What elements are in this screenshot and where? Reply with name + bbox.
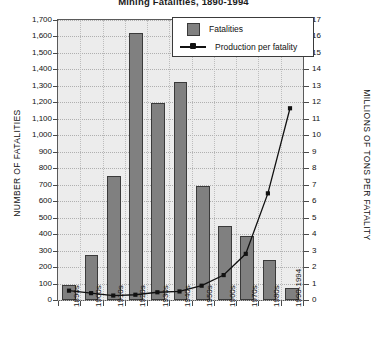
y-tick-mark-left (53, 201, 58, 202)
legend-swatch-bar (187, 23, 200, 36)
y-tick-left: 800 (16, 164, 52, 172)
y-tick-mark-left (53, 86, 58, 87)
x-tick-mark (214, 301, 215, 306)
y-tick-right: 11 (312, 115, 320, 123)
y-tick-right: 10 (312, 131, 321, 139)
y-tick-left: 1,300 (16, 82, 52, 90)
legend-item-fatalities: Fatalities (173, 20, 313, 38)
data-point-1900s (89, 291, 93, 295)
y-tick-left: 200 (16, 263, 52, 271)
x-tick-mark (303, 301, 304, 306)
data-point-1960s (222, 273, 226, 277)
y-tick-mark-left (53, 234, 58, 235)
y-tick-right: 5 (312, 214, 316, 222)
y-tick-left: 100 (16, 280, 52, 288)
x-tick-mark (192, 301, 193, 306)
y-tick-mark-right (304, 69, 309, 70)
y-tick-left: 1,200 (16, 98, 52, 106)
legend-line-marker (180, 42, 206, 52)
y-tick-mark-right (304, 234, 309, 235)
y-tick-right: 2 (312, 263, 316, 271)
y-tick-mark-right (304, 201, 309, 202)
y-tick-mark-left (53, 69, 58, 70)
y-tick-right: 1 (312, 280, 316, 288)
y-tick-mark-left (53, 251, 58, 252)
y-axis-label-right: MILLIONS OF TONS PER FATALITY (362, 75, 372, 255)
data-point-1970s (244, 252, 248, 256)
y-tick-mark-left (53, 53, 58, 54)
x-tick-mark (258, 301, 259, 306)
y-tick-mark-left (53, 152, 58, 153)
y-tick-right: 7 (312, 181, 316, 189)
data-point-1890s (67, 289, 71, 293)
y-tick-left: 400 (16, 230, 52, 238)
data-point-1950s (200, 284, 204, 288)
y-tick-left: 1,100 (16, 115, 52, 123)
y-tick-mark-right (304, 267, 309, 268)
y-tick-left: 500 (16, 214, 52, 222)
y-tick-left: 1,000 (16, 131, 52, 139)
y-tick-mark-right (304, 284, 309, 285)
y-tick-mark-left (53, 36, 58, 37)
y-tick-right: 14 (312, 65, 321, 73)
y-tick-mark-left (53, 284, 58, 285)
data-point-1940s (177, 289, 181, 293)
y-tick-mark-left (53, 267, 58, 268)
y-tick-right: 3 (312, 247, 316, 255)
data-point-1920s (133, 293, 137, 297)
y-tick-right: 12 (312, 98, 321, 106)
y-tick-left: 1,600 (16, 32, 52, 40)
y-tick-mark-right (304, 152, 309, 153)
y-tick-right: 13 (312, 82, 321, 90)
y-tick-left: 1,700 (16, 16, 52, 24)
y-tick-mark-left (53, 119, 58, 120)
y-tick-left: 0 (16, 296, 52, 304)
y-tick-mark-left (53, 102, 58, 103)
y-tick-right: 6 (312, 197, 316, 205)
x-tick-mark (281, 301, 282, 306)
y-tick-right: 8 (312, 164, 316, 172)
chart-title: Mining Fatalities, 1890-1994 (0, 0, 367, 7)
chart-legend: Fatalities Production per fatality (172, 17, 314, 57)
line-series-production-per-fatality (58, 20, 303, 300)
y-tick-mark-right (304, 135, 309, 136)
y-tick-left: 300 (16, 247, 52, 255)
legend-item-production-per-fatality: Production per fatality (173, 38, 313, 56)
y-tick-mark-left (53, 20, 58, 21)
x-tick-mark (125, 301, 126, 306)
y-tick-right: 0 (312, 296, 316, 304)
y-tick-left: 1,400 (16, 65, 52, 73)
x-tick-mark (103, 301, 104, 306)
x-tick-mark (147, 301, 148, 306)
data-point-1990-1994 (288, 106, 292, 110)
production-line-path (69, 108, 290, 295)
y-tick-left: 1,500 (16, 49, 52, 57)
y-tick-right: 9 (312, 148, 316, 156)
legend-label-production: Production per fatality (215, 42, 297, 52)
x-tick-mark (169, 301, 170, 306)
y-tick-mark-right (304, 119, 309, 120)
y-tick-mark-left (53, 185, 58, 186)
y-tick-left: 600 (16, 197, 52, 205)
y-tick-mark-right (304, 300, 309, 301)
y-tick-mark-right (304, 86, 309, 87)
y-tick-left: 700 (16, 181, 52, 189)
y-tick-mark-left (53, 135, 58, 136)
y-tick-mark-left (53, 218, 58, 219)
x-tick-mark (58, 301, 59, 306)
y-tick-mark-left (53, 168, 58, 169)
x-tick-mark (80, 301, 81, 306)
y-tick-mark-right (304, 102, 309, 103)
data-point-1980s (266, 191, 270, 195)
data-point-1910s (111, 293, 115, 297)
y-tick-mark-right (304, 185, 309, 186)
legend-label-fatalities: Fatalities (209, 24, 243, 34)
y-tick-right: 4 (312, 230, 316, 238)
y-tick-left: 900 (16, 148, 52, 156)
data-point-1930s (155, 290, 159, 294)
y-tick-mark-right (304, 251, 309, 252)
y-tick-mark-right (304, 168, 309, 169)
plot-area (57, 19, 304, 301)
x-tick-mark (236, 301, 237, 306)
